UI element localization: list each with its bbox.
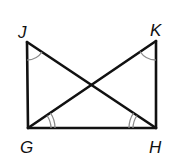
label-j: J — [17, 23, 27, 42]
angle-arc-k — [140, 52, 156, 61]
segments — [27, 41, 156, 128]
angle-arc-j — [27, 52, 42, 60]
label-h: H — [149, 138, 162, 157]
geometry-diagram: J K G H — [0, 0, 171, 159]
angle-arc-g-1 — [47, 116, 51, 129]
label-k: K — [150, 21, 162, 40]
angle-arc-h-1 — [133, 116, 137, 129]
label-g: G — [20, 138, 33, 157]
segment-jg — [27, 42, 28, 128]
